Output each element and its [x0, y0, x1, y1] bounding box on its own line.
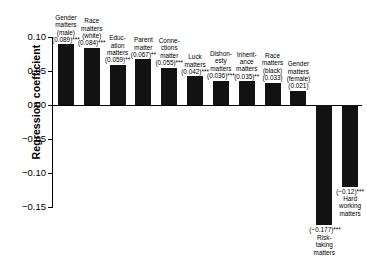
bar-group-hard-working-matters[interactable]: (−0.12)***Hardworkingmatters [337, 0, 363, 240]
y-tick-mark [48, 207, 52, 208]
bar-race-matters-black[interactable] [265, 83, 281, 105]
bar-value-label: (−0.177)*** [309, 226, 339, 233]
y-tick-label: −0.10 [12, 168, 46, 178]
bar-group-connections-matter[interactable]: Conne-ctionsmatter(0.055)*** [156, 0, 182, 240]
y-axis-tick-labels: 0.100.050.00−0.05−0.10−0.15 [12, 0, 46, 240]
bar-group-race-matters-black[interactable]: Racematters(black)(0.033) [260, 0, 286, 240]
bar-label-line: Risk- [309, 234, 339, 241]
plot-area: Gendermatters(male)(0.089)***Racematters… [53, 0, 363, 240]
bar-group-gender-matters-female[interactable]: Gendermatters(female)(0.021) [286, 0, 312, 240]
bar-risk-taking-matters[interactable] [316, 105, 332, 225]
bar-value-label: (−0.12)*** [335, 188, 365, 195]
bar-group-parent-matter[interactable]: Parentmatter(0.067)** [131, 0, 157, 240]
bar-label-line: working [335, 202, 365, 209]
bar-label-line: ctions [154, 44, 184, 51]
bar-label-risk-taking-matters: (−0.177)***Risk-takingmatters [309, 226, 339, 256]
bar-label-line: matters [284, 68, 314, 75]
bar-dishonesty-matters[interactable] [213, 81, 229, 105]
bar-connections-matter[interactable] [161, 68, 177, 105]
bar-group-education-matters[interactable]: Educ-ationmatters(0.059)** [105, 0, 131, 240]
bar-gender-matters-female[interactable] [290, 91, 306, 105]
y-tick-mark [48, 139, 52, 140]
bar-label-line: Race [77, 17, 107, 24]
bar-race-matters-white[interactable] [84, 48, 100, 105]
bar-luck-matters[interactable] [187, 76, 203, 105]
bar-gender-matters-male[interactable] [58, 44, 74, 105]
y-tick-label: 0.10 [12, 32, 46, 42]
bar-label-hard-working-matters: (−0.12)***Hardworkingmatters [335, 188, 365, 218]
bar-education-matters[interactable] [110, 65, 126, 105]
bar-label-line: matters [77, 25, 107, 32]
bar-parent-matter[interactable] [135, 59, 151, 105]
bar-label-line: Hard [335, 195, 365, 202]
bar-group-race-matters-white[interactable]: Racematters(white)(0.084)*** [79, 0, 105, 240]
bar-label-line: Gender [284, 60, 314, 67]
bar-label-line: Race [258, 52, 288, 59]
bar-hard-working-matters[interactable] [342, 105, 358, 187]
y-tick-mark [48, 173, 52, 174]
bar-group-gender-matters-male[interactable]: Gendermatters(male)(0.089)*** [53, 0, 79, 240]
bar-group-luck-matters[interactable]: Luckmatters(0.042)*** [182, 0, 208, 240]
bar-label-line: matters [309, 249, 339, 256]
y-tick-label: −0.05 [12, 134, 46, 144]
bar-group-risk-taking-matters[interactable]: (−0.177)***Risk-takingmatters [311, 0, 337, 240]
y-tick-label: 0.05 [12, 66, 46, 76]
bar-label-line: (female) [284, 75, 314, 82]
bar-inheritance-matters[interactable] [239, 81, 255, 105]
y-tick-mark [48, 105, 52, 106]
bar-label-line: matters [335, 210, 365, 217]
y-tick-label: 0.00 [12, 100, 46, 110]
y-tick-mark [48, 37, 52, 38]
bar-value-label: (0.021) [284, 82, 314, 89]
y-tick-mark [48, 71, 52, 72]
bar-label-gender-matters-female: Gendermatters(female)(0.021) [284, 60, 314, 90]
bar-group-inheritance-matters[interactable]: Inherit-ancematters(0.035)** [234, 0, 260, 240]
bar-label-line: Conne- [154, 37, 184, 44]
bar-group-dishonesty-matters[interactable]: Dishon-estymatters(0.036)*** [208, 0, 234, 240]
y-tick-label: −0.15 [12, 202, 46, 212]
bar-label-line: taking [309, 241, 339, 248]
